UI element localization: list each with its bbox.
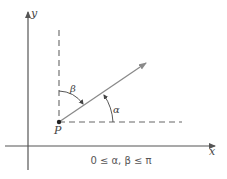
point-p-label: P (53, 124, 62, 137)
alpha-label: α (113, 104, 120, 115)
y-axis-label: y (30, 7, 38, 20)
direction-angles-diagram: y x P β α 0 ≤ α, β ≤ π (0, 0, 227, 179)
alpha-angle-arc (104, 95, 113, 122)
x-axis-label: x (209, 145, 216, 158)
beta-label: β (69, 83, 76, 94)
angle-range-caption: 0 ≤ α, β ≤ π (90, 155, 151, 166)
